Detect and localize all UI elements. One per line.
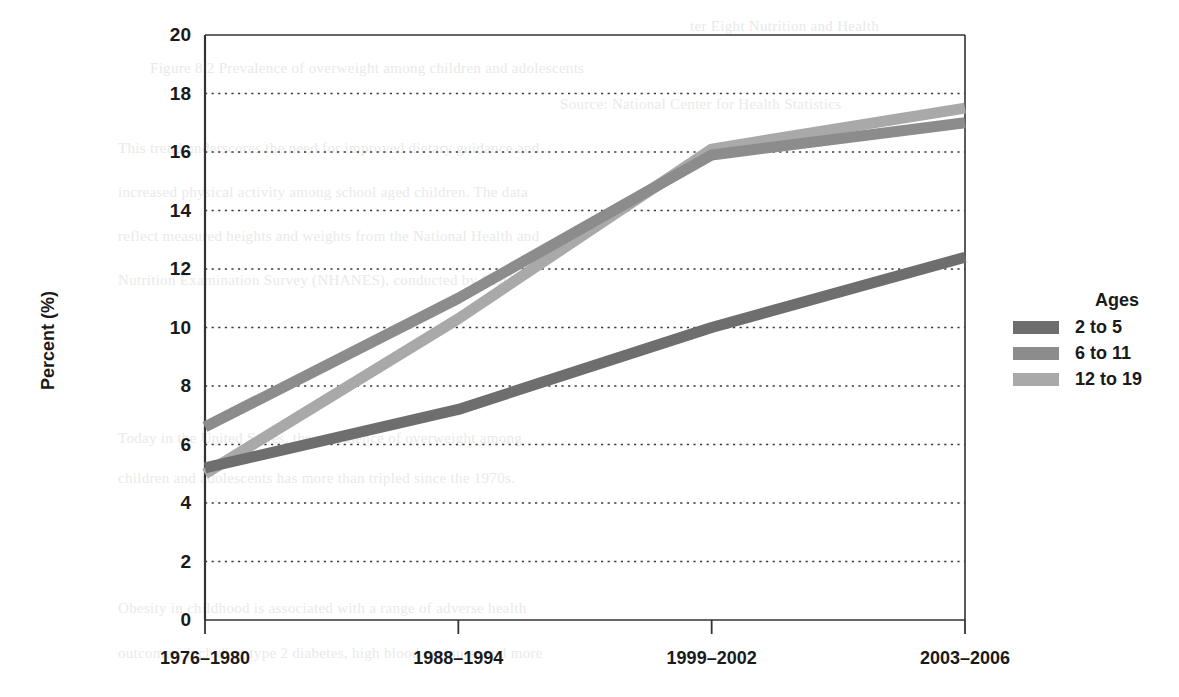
legend-entry: 12 to 19 xyxy=(1013,366,1173,392)
legend-color-swatch xyxy=(1013,373,1059,386)
plot-area xyxy=(0,0,1179,697)
chart-page: ter Eight Nutrition and Health Figure 8.… xyxy=(0,0,1179,697)
series-line xyxy=(205,257,965,468)
legend-entry-label: 12 to 19 xyxy=(1075,369,1142,390)
x-axis-ticks-marks xyxy=(205,620,965,634)
series-line xyxy=(205,123,965,427)
gridlines xyxy=(205,94,965,562)
legend-entry-label: 6 to 11 xyxy=(1075,343,1131,364)
legend-color-swatch xyxy=(1013,347,1059,360)
legend-entry: 2 to 5 xyxy=(1013,314,1173,340)
legend-entries: 2 to 56 to 1112 to 19 xyxy=(1013,314,1173,392)
legend: Ages 2 to 56 to 1112 to 19 xyxy=(1013,290,1173,392)
data-series xyxy=(205,108,965,474)
legend-title: Ages xyxy=(1095,290,1173,311)
legend-color-swatch xyxy=(1013,321,1059,334)
line-chart: Percent (%) 02468101214161820 1976–19801… xyxy=(0,0,1179,697)
legend-entry-label: 2 to 5 xyxy=(1075,317,1122,338)
legend-entry: 6 to 11 xyxy=(1013,340,1173,366)
